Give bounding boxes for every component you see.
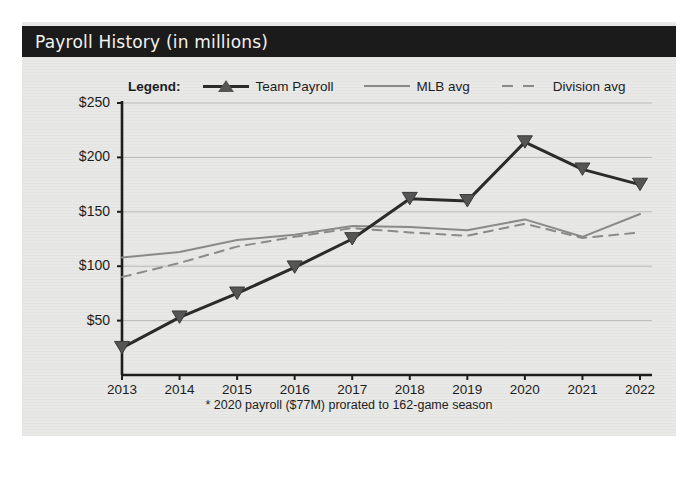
x-axis-tick-label: 2020: [500, 382, 550, 397]
y-axis-tick-label: $200: [50, 148, 110, 164]
x-axis-tick-label: 2016: [270, 382, 320, 397]
legend-label: Legend:: [128, 79, 181, 94]
x-axis-tick-label: 2017: [327, 382, 377, 397]
x-axis-tick-label: 2021: [557, 382, 607, 397]
page-title: Payroll History (in millions): [22, 32, 268, 52]
chart-page: Payroll History (in millions) Legend: Te…: [0, 0, 698, 479]
legend-dashed-line-icon-division-avg: [500, 80, 546, 92]
x-axis-tick-label: 2013: [97, 382, 147, 397]
y-axis-tick-label: $250: [50, 94, 110, 110]
legend-item-division-avg: Division avg: [500, 79, 626, 94]
legend-item-label: MLB avg: [417, 79, 470, 94]
y-axis-tick-label: $50: [50, 312, 110, 328]
triangle-marker-icon: [218, 80, 234, 92]
y-axis-tick-label: $150: [50, 203, 110, 219]
x-axis-tick-label: 2015: [212, 382, 262, 397]
x-axis-tick-label: 2022: [615, 382, 665, 397]
chart-legend: Legend: Team Payroll MLB avg Division av…: [128, 76, 648, 96]
legend-item-team-payroll: Team Payroll: [203, 79, 334, 94]
legend-item-label: Team Payroll: [256, 79, 334, 94]
legend-item-mlb-avg: MLB avg: [364, 79, 470, 94]
x-axis-tick-label: 2014: [155, 382, 205, 397]
x-axis-tick-label: 2018: [385, 382, 435, 397]
x-axis-tick-label: 2019: [442, 382, 492, 397]
chart-title-bar: Payroll History (in millions): [22, 26, 676, 57]
y-axis-tick-label: $100: [50, 257, 110, 273]
legend-line-icon-team-payroll: [203, 80, 249, 92]
legend-item-label: Division avg: [553, 79, 626, 94]
chart-footnote: * 2020 payroll ($77M) prorated to 162-ga…: [0, 398, 698, 412]
legend-line-icon-mlb-avg: [364, 80, 410, 92]
